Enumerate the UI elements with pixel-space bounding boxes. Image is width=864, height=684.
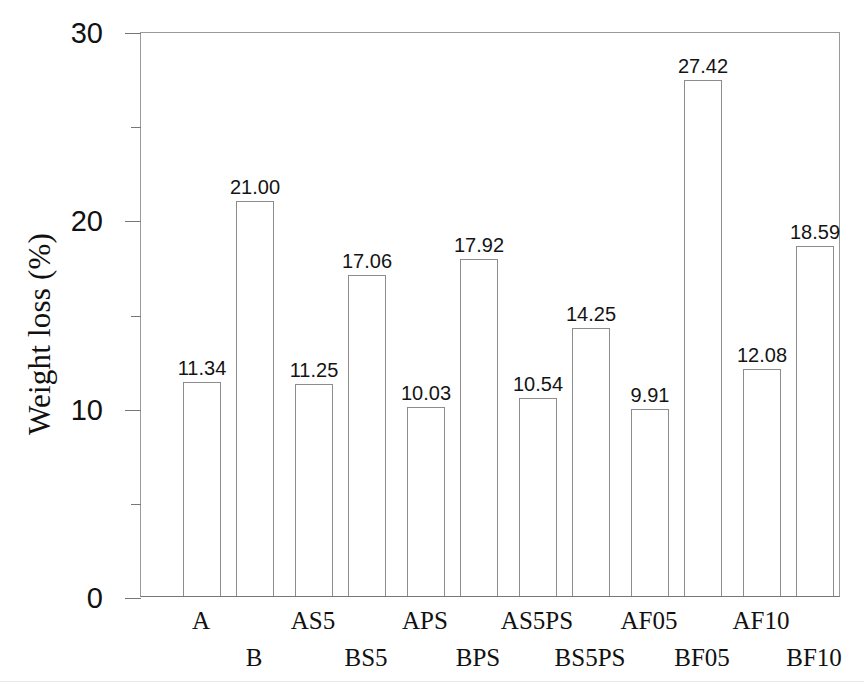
bar: 18.59 — [796, 246, 834, 596]
bar-value-label: 10.03 — [401, 382, 451, 405]
bar-series: 11.3421.0011.2517.0610.0317.9210.5414.25… — [141, 33, 839, 596]
y-tick-label: 10 — [71, 393, 103, 426]
bar: 11.25 — [295, 384, 333, 596]
y-axis-title: Weight loss (%) — [22, 104, 58, 564]
y-tick-minor — [131, 127, 141, 128]
y-tick-label: 0 — [87, 582, 103, 615]
y-tick-minor — [131, 316, 141, 317]
bar: 10.54 — [519, 398, 557, 597]
bar-value-label: 11.34 — [178, 357, 227, 380]
bar: 11.34 — [183, 382, 221, 596]
x-tick-label: BS5 — [344, 644, 387, 672]
scan-artifact-line — [0, 681, 864, 682]
x-tick-label: B — [246, 644, 263, 672]
y-tick-minor — [131, 504, 141, 505]
bar: 17.92 — [460, 259, 498, 596]
bar: 12.08 — [743, 369, 781, 597]
bar-value-label: 9.91 — [631, 384, 670, 407]
x-tick-label: AF10 — [733, 607, 790, 635]
bar: 17.06 — [348, 275, 386, 596]
y-tick-label: 20 — [71, 205, 103, 238]
bar: 14.25 — [572, 328, 610, 596]
x-tick-label: AS5 — [291, 607, 335, 635]
x-tick-label: BF10 — [786, 644, 842, 672]
x-tick-label: BF05 — [674, 644, 730, 672]
x-tick-label: BPS — [456, 644, 500, 672]
bar-value-label: 11.25 — [290, 359, 339, 382]
bar-value-label: 12.08 — [737, 344, 787, 367]
x-tick-label: AS5PS — [501, 607, 573, 635]
y-tick-label: 30 — [71, 17, 103, 50]
bar-value-label: 27.42 — [678, 55, 728, 78]
y-tick-major: 10 — [125, 410, 141, 411]
x-axis-tick-labels: ABAS5BS5APSBPSAS5PSBS5PSAF05BF05AF10BF10 — [140, 597, 840, 684]
bar-value-label: 17.92 — [454, 234, 504, 257]
y-tick-major: 20 — [125, 221, 141, 222]
bar: 27.42 — [684, 80, 722, 596]
bar-value-label: 10.54 — [513, 373, 563, 396]
bar-chart-figure: Weight loss (%) 0102030 11.3421.0011.251… — [0, 0, 864, 684]
bar: 10.03 — [407, 407, 445, 596]
bar-value-label: 21.00 — [230, 176, 280, 199]
plot-area: 0102030 11.3421.0011.2517.0610.0317.9210… — [140, 32, 840, 597]
y-tick-major: 0 — [125, 598, 141, 599]
x-tick-label: BS5PS — [555, 644, 626, 672]
bar-value-label: 14.25 — [566, 303, 616, 326]
x-tick-label: AF05 — [621, 607, 678, 635]
x-tick-label: APS — [402, 607, 448, 635]
y-tick-major: 30 — [125, 33, 141, 34]
x-tick-label: A — [192, 607, 210, 635]
bar: 21.00 — [236, 201, 274, 597]
bar-value-label: 17.06 — [342, 250, 392, 273]
bar: 9.91 — [631, 409, 669, 596]
bar-value-label: 18.59 — [790, 221, 840, 244]
